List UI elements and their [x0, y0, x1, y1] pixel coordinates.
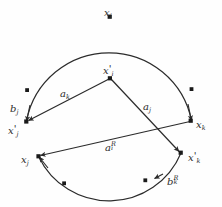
diagram-canvas: xi x'i x'j xk xj x'k ak aj aRi bj bRk [0, 0, 222, 207]
label-a-j: aj [143, 97, 151, 114]
node-dot-x-j-prime [24, 119, 28, 123]
label-x-j-prime: x'j [8, 121, 18, 138]
edge-a-j [111, 79, 179, 152]
label-x-j: xj [21, 150, 29, 167]
node-dot-arc-lower-right [143, 178, 147, 182]
label-a-k: ak [60, 84, 70, 101]
label-b-k-R: bRk [167, 172, 178, 188]
label-b-j: bj [10, 99, 18, 116]
arc-b-k-R-mid-arrowhead [155, 174, 164, 179]
node-dot-x-k [189, 119, 193, 123]
arc-b-j-arrowhead [27, 105, 30, 121]
label-x-i-prime: x'i [103, 61, 113, 78]
node-dot-arc-upper-right [190, 87, 194, 91]
label-x-k: xk [196, 115, 206, 132]
node-dot-arc-lower-left [62, 181, 66, 185]
arc-b-j-arrowhead-right [188, 104, 191, 121]
node-dots [24, 15, 193, 186]
label-x-k-prime: x'k [188, 148, 200, 165]
node-dot-arc-upper-left [25, 88, 29, 92]
label-a-i-R: aRi [105, 138, 116, 154]
diagram-svg [0, 0, 222, 207]
node-dot-x-k-prime [179, 151, 183, 155]
lower-arc-group [39, 153, 181, 201]
node-dot-x-j [36, 154, 40, 158]
arc-b-k-R [39, 153, 181, 201]
label-x-i: xi [104, 3, 112, 20]
